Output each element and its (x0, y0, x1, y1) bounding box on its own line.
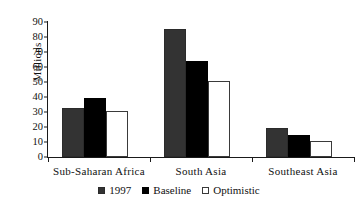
y-axis-tick-mark (44, 112, 48, 113)
y-axis-tick-label: 0 (38, 152, 43, 163)
y-axis-tick-label: 10 (33, 137, 44, 148)
x-axis-category-label: Sub-Saharan Africa (53, 165, 145, 177)
y-axis-tick-label: 40 (33, 92, 44, 103)
y-axis-tick-label: 30 (33, 107, 44, 118)
y-axis-tick-label: 70 (33, 47, 44, 58)
y-axis-tick-label: 90 (33, 17, 44, 28)
bar-1997-southeast-asia (266, 128, 288, 157)
y-axis-tick-mark (44, 37, 48, 38)
legend-swatch-icon (202, 187, 209, 194)
legend-swatch-icon (98, 187, 105, 194)
y-axis-tick-mark (44, 97, 48, 98)
bar-baseline-south-asia (186, 61, 208, 157)
legend-item-baseline: Baseline (142, 184, 191, 196)
y-axis-tick-mark (44, 127, 48, 128)
y-axis-tick-label: 20 (33, 122, 44, 133)
legend-item-optimistic: Optimistic (202, 184, 259, 196)
y-axis-tick-label: 60 (33, 62, 44, 73)
bar-baseline-sub-saharan-africa (84, 98, 106, 157)
x-axis-line (47, 157, 354, 158)
bar-optimistic-south-asia (208, 81, 230, 158)
y-axis-tick-label: 80 (33, 32, 44, 43)
bar-1997-south-asia (164, 29, 186, 157)
y-axis-tick-mark (44, 67, 48, 68)
y-axis-tick-label: 50 (33, 77, 44, 88)
y-axis-tick-mark (44, 82, 48, 83)
x-axis-tick-mark (252, 157, 253, 162)
plot-area: 9080706050403020100 (48, 22, 354, 157)
x-axis-category-label: South Asia (176, 165, 227, 177)
bar-optimistic-southeast-asia (310, 141, 332, 158)
x-axis-category-label: Southeast Asia (268, 165, 337, 177)
bar-baseline-southeast-asia (288, 135, 310, 157)
legend-label: 1997 (109, 184, 131, 196)
legend-label: Baseline (153, 184, 191, 196)
y-axis-tick-mark (44, 22, 48, 23)
chart-legend: 1997BaselineOptimistic (0, 184, 358, 196)
bar-optimistic-sub-saharan-africa (106, 111, 128, 157)
bar-chart: Millions 9080706050403020100 1997Baselin… (0, 0, 358, 204)
legend-label: Optimistic (213, 184, 259, 196)
legend-swatch-icon (142, 187, 149, 194)
x-axis-tick-mark (150, 157, 151, 162)
y-axis-tick-mark (44, 142, 48, 143)
x-axis-tick-mark (48, 157, 49, 162)
legend-item-1997: 1997 (98, 184, 131, 196)
y-axis-tick-mark (44, 52, 48, 53)
x-axis-tick-mark (354, 157, 355, 162)
bar-1997-sub-saharan-africa (62, 108, 84, 158)
